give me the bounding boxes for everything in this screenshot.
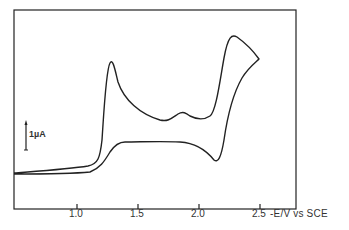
x-tick-label-2-5: 2.5 <box>252 208 266 219</box>
voltammogram-plot <box>0 0 349 230</box>
x-axis-ticks <box>77 204 260 209</box>
x-tick-label-1-5: 1.5 <box>130 208 144 219</box>
current-scale-bar <box>24 120 28 150</box>
scale-bar-label: 1µA <box>29 129 46 139</box>
plot-frame <box>14 10 296 209</box>
x-axis-label: -E/V vs SCE <box>270 208 328 219</box>
x-tick-label-2-0: 2.0 <box>191 208 205 219</box>
x-tick-label-1-0: 1.0 <box>69 208 83 219</box>
cv-curve <box>14 36 259 174</box>
